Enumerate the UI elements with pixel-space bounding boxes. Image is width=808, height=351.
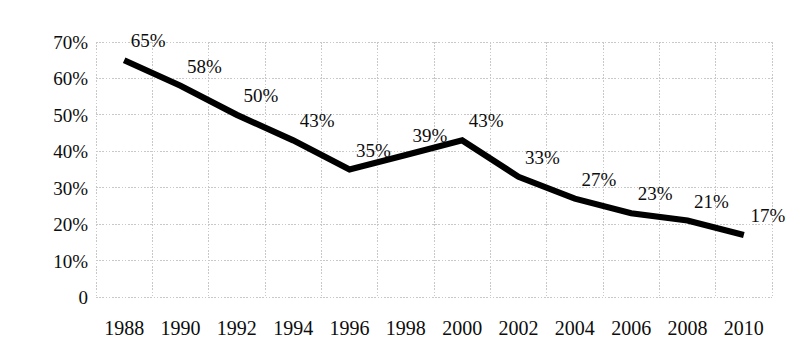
data-point-label: 33% <box>525 147 560 168</box>
data-point-label: 35% <box>356 140 391 161</box>
x-axis-tick-label: 2010 <box>724 317 764 339</box>
data-point-label: 43% <box>300 110 335 131</box>
data-point-label: 50% <box>243 85 278 106</box>
x-axis-tick-label: 1994 <box>273 317 313 339</box>
x-axis-tick-label: 2008 <box>668 317 708 339</box>
x-axis-tick-label: 2006 <box>611 317 651 339</box>
x-axis-tick-label: 1996 <box>330 317 370 339</box>
x-axis-tick-label: 2002 <box>499 317 539 339</box>
y-axis-tick-label: 60% <box>53 68 88 89</box>
data-point-label: 27% <box>581 169 616 190</box>
data-point-label: 43% <box>469 110 504 131</box>
x-axis-tick-label: 1992 <box>217 317 257 339</box>
chart-background <box>0 0 808 351</box>
y-axis-tick-label: 40% <box>53 141 88 162</box>
data-point-label: 65% <box>131 30 166 51</box>
y-axis-tick-label: 0 <box>79 287 89 308</box>
x-axis-tick-label: 1998 <box>386 317 426 339</box>
x-axis-tick-label: 2000 <box>442 317 482 339</box>
x-axis-tick-label: 1988 <box>104 317 144 339</box>
y-axis-tick-label: 20% <box>53 214 88 235</box>
chart-canvas: 70%60%50%40%30%20%10%0 19881990199219941… <box>0 0 808 351</box>
line-chart: 70%60%50%40%30%20%10%0 19881990199219941… <box>0 0 808 351</box>
data-point-label: 39% <box>412 125 447 146</box>
data-point-label: 21% <box>694 191 729 212</box>
y-axis-tick-label: 30% <box>53 178 88 199</box>
y-axis-tick-label: 70% <box>53 32 88 53</box>
y-axis-tick-label: 50% <box>53 105 88 126</box>
x-axis-tick-label: 1990 <box>161 317 201 339</box>
data-point-label: 23% <box>638 183 673 204</box>
data-point-label: 58% <box>187 56 222 77</box>
x-axis-tick-label: 2004 <box>555 317 595 339</box>
y-axis-tick-label: 10% <box>53 251 88 272</box>
data-point-label: 17% <box>750 205 785 226</box>
